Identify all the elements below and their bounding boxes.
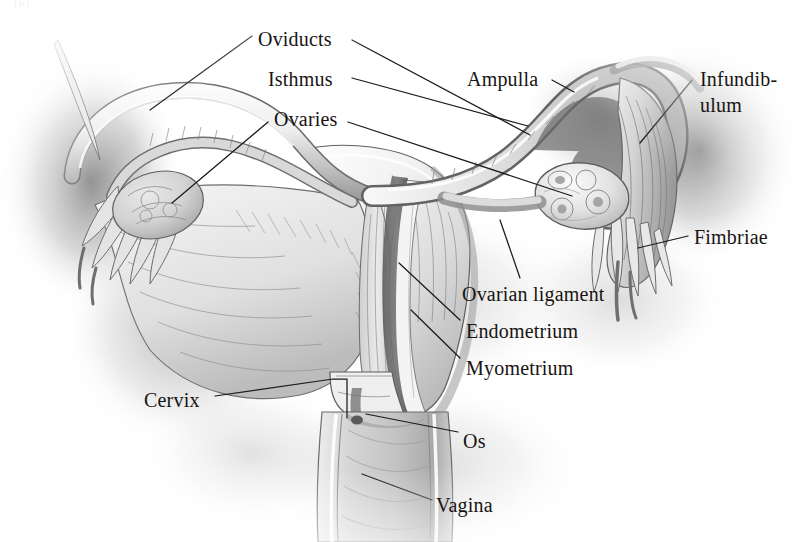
vagina-canal <box>317 412 453 542</box>
label-os: Os <box>463 430 486 453</box>
label-isthmus: Isthmus <box>268 68 333 91</box>
anatomy-illustration <box>0 0 805 542</box>
label-endometrium: Endometrium <box>466 320 578 343</box>
label-vagina: Vagina <box>436 494 493 517</box>
os-opening <box>351 416 363 425</box>
label-oviducts: Oviducts <box>258 28 332 51</box>
label-myometrium: Myometrium <box>466 357 574 380</box>
figure-caption-fragment: (b) <box>14 0 30 9</box>
label-fimbriae: Fimbriae <box>694 226 768 249</box>
label-cervix: Cervix <box>144 389 200 412</box>
label-ampulla: Ampulla <box>467 68 538 91</box>
anatomy-figure: (b) Oviducts Isthmus Ampulla Infundib- u… <box>0 0 805 542</box>
label-infundibulum: Infundib- ulum <box>700 66 777 118</box>
label-ovarian-ligament: Ovarian ligament <box>462 283 605 306</box>
label-ovaries: Ovaries <box>274 108 338 131</box>
